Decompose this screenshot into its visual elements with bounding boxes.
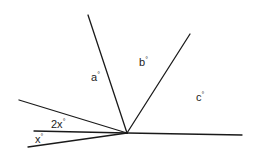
angle-label-2x: 2x° (51, 119, 65, 130)
degree-symbol: ° (63, 118, 66, 125)
degree-symbol: ° (97, 71, 100, 78)
angle-label-x: x° (35, 134, 43, 145)
ray-b (127, 34, 190, 133)
angle-2x-text: 2x (51, 118, 63, 130)
degree-symbol: ° (145, 56, 148, 63)
angle-label-c: c° (196, 92, 204, 103)
degree-symbol: ° (202, 91, 205, 98)
ray-middle-left (34, 131, 127, 133)
angle-label-a: a° (91, 72, 100, 83)
ray-right (127, 133, 242, 135)
angle-label-b: b° (139, 57, 148, 68)
degree-symbol: ° (41, 133, 44, 140)
ray-upper-left (19, 100, 127, 133)
angle-c-text: c (196, 91, 202, 103)
angle-x-text: x (35, 133, 41, 145)
